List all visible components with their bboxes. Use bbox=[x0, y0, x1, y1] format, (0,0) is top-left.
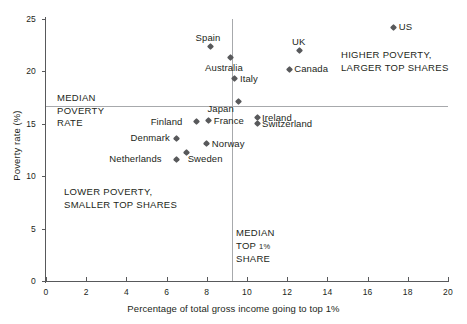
data-point-label: France bbox=[214, 115, 244, 126]
data-point-marker bbox=[207, 43, 214, 50]
annotation-median-top-share: MEDIAN TOP 1% SHARE bbox=[236, 227, 275, 266]
x-tick-mark bbox=[287, 277, 288, 281]
y-tick-label: 0 bbox=[16, 276, 36, 286]
x-tick-label: 14 bbox=[314, 287, 340, 297]
x-tick-label: 10 bbox=[234, 287, 260, 297]
x-tick-label: 20 bbox=[435, 287, 461, 297]
data-point-label: Japan bbox=[207, 103, 233, 114]
data-point-label: Switzerland bbox=[262, 118, 312, 129]
x-tick-mark bbox=[86, 277, 87, 281]
y-tick-label: 25 bbox=[16, 14, 36, 24]
x-tick-mark bbox=[448, 277, 449, 281]
data-point-marker bbox=[390, 24, 397, 31]
data-point-label: Australia bbox=[205, 62, 243, 73]
data-point-label: UK bbox=[292, 36, 305, 47]
data-point-label: Finland bbox=[151, 116, 183, 127]
x-tick-mark bbox=[46, 277, 47, 281]
y-tick-mark bbox=[42, 124, 46, 125]
x-tick-label: 18 bbox=[395, 287, 421, 297]
y-axis-line bbox=[45, 17, 46, 283]
annotation-higher-poverty: HIGHER POVERTY, LARGER TOP SHARES bbox=[341, 49, 449, 74]
data-point-marker bbox=[254, 120, 261, 127]
x-axis-title: Percentage of total gross income going t… bbox=[0, 303, 467, 314]
annotation-one-percent: 1% bbox=[259, 242, 270, 251]
y-tick-mark bbox=[42, 71, 46, 72]
data-point-label: Sweden bbox=[188, 153, 223, 164]
data-point-marker bbox=[193, 118, 200, 125]
data-point-label: Spain bbox=[196, 32, 221, 43]
data-point-label: US bbox=[399, 21, 412, 32]
x-tick-label: 12 bbox=[274, 287, 300, 297]
data-point-label: Netherlands bbox=[109, 153, 161, 164]
annotation-median-poverty-rate: MEDIAN POVERTY RATE bbox=[57, 92, 104, 130]
annotation-lower-poverty: LOWER POVERTY, SMALLER TOP SHARES bbox=[64, 186, 177, 211]
data-point-marker bbox=[205, 117, 212, 124]
x-axis-line bbox=[45, 281, 449, 282]
x-tick-mark bbox=[368, 277, 369, 281]
y-tick-mark bbox=[42, 176, 46, 177]
x-tick-mark bbox=[126, 277, 127, 281]
data-point-label: Italy bbox=[240, 73, 258, 84]
scatter-chart: 02468101214161820 0510152025 USSpainUKAu… bbox=[0, 0, 467, 324]
data-point-marker bbox=[296, 47, 303, 54]
x-tick-label: 0 bbox=[33, 287, 59, 297]
x-tick-label: 4 bbox=[113, 287, 139, 297]
data-point-marker bbox=[173, 156, 180, 163]
x-tick-mark bbox=[167, 277, 168, 281]
data-point-marker bbox=[235, 98, 242, 105]
x-tick-label: 2 bbox=[73, 287, 99, 297]
x-tick-label: 8 bbox=[194, 287, 220, 297]
annotation-median-top-share-line1: MEDIAN bbox=[236, 227, 275, 238]
annotation-top-word: TOP bbox=[236, 240, 259, 251]
x-tick-mark bbox=[408, 277, 409, 281]
x-tick-label: 16 bbox=[355, 287, 381, 297]
data-point-marker bbox=[286, 66, 293, 73]
data-point-marker bbox=[173, 135, 180, 142]
annotation-median-top-share-line2: TOP 1% bbox=[236, 240, 270, 251]
y-tick-mark bbox=[42, 19, 46, 20]
reference-line-median-poverty-rate bbox=[46, 106, 448, 107]
x-tick-mark bbox=[207, 277, 208, 281]
y-tick-mark bbox=[42, 281, 46, 282]
y-axis-title: Poverty rate (%) bbox=[11, 76, 22, 216]
data-point-label: Norway bbox=[212, 138, 245, 149]
data-point-marker bbox=[227, 54, 234, 61]
data-point-label: Denmark bbox=[131, 132, 170, 143]
y-tick-mark bbox=[42, 229, 46, 230]
annotation-median-top-share-line3: SHARE bbox=[236, 253, 270, 264]
x-tick-mark bbox=[327, 277, 328, 281]
x-tick-mark bbox=[247, 277, 248, 281]
y-tick-label: 5 bbox=[16, 224, 36, 234]
x-tick-label: 6 bbox=[154, 287, 180, 297]
data-point-marker bbox=[203, 140, 210, 147]
data-point-label: Canada bbox=[294, 63, 328, 74]
